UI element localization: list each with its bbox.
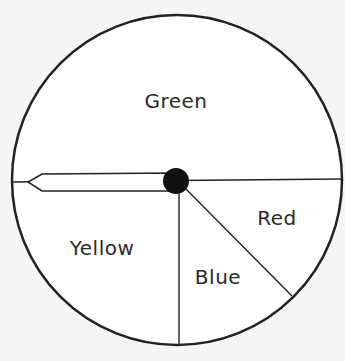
section-label-yellow: Yellow	[70, 236, 135, 260]
section-label-blue: Blue	[195, 265, 241, 289]
section-label-red: Red	[257, 206, 297, 230]
spinner-diagram: Green Yellow Blue Red	[0, 0, 345, 361]
section-label-green: Green	[144, 89, 207, 113]
spinner-hub	[163, 168, 189, 194]
spinner-wheel	[0, 0, 345, 361]
spinner-needle[interactable]	[28, 173, 177, 191]
